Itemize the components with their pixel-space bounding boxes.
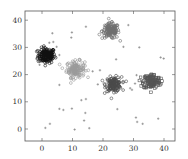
cluster-3-points [98, 17, 122, 42]
x-tick-label: 10 [68, 144, 78, 153]
data-points [35, 17, 165, 131]
y-tick-label: 10 [12, 97, 22, 106]
y-tick-label: 30 [12, 43, 22, 52]
x-tick-label: 0 [40, 144, 45, 153]
y-tick-label: 40 [12, 16, 22, 25]
cluster-2-points [58, 58, 89, 84]
scatter-chart: 010203040 010203040 [0, 0, 188, 159]
x-tick-label: 40 [159, 144, 169, 153]
x-tick-label: 30 [129, 144, 139, 153]
cluster-5-points [138, 73, 163, 94]
y-axis: 010203040 [12, 16, 175, 134]
x-tick-label: 20 [98, 144, 108, 153]
y-tick-label: 0 [17, 125, 22, 134]
cluster-4-points [101, 74, 128, 99]
y-tick-label: 20 [12, 70, 22, 79]
cluster-1-points [35, 45, 57, 67]
